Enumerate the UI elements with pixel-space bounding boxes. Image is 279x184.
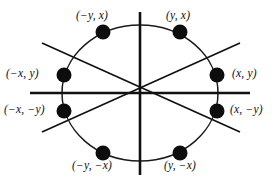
point-label-right-lower: (x, −y) xyxy=(230,104,263,116)
symmetry-point-right-lower xyxy=(210,104,225,119)
symmetry-point-right-upper xyxy=(210,68,225,83)
point-label-left-lower: (−x, −y) xyxy=(4,104,45,116)
point-label-top-left: (−y, x) xyxy=(76,10,108,22)
point-label-right-upper: (x, y) xyxy=(232,68,257,80)
point-label-bottom-left: (−y, −x) xyxy=(72,160,112,172)
circle-symmetry-diagram: (−y, x) (y, x) (−x, y) (x, y) (−x, −y) (… xyxy=(0,0,279,184)
symmetry-point-left-upper xyxy=(57,68,72,83)
point-label-bottom-right: (y, −x) xyxy=(164,160,196,172)
symmetry-point-top-left xyxy=(96,25,111,40)
diagram-canvas xyxy=(0,0,279,184)
symmetry-point-top-right xyxy=(173,25,188,40)
point-label-left-upper: (−x, y) xyxy=(6,68,39,80)
point-label-top-right: (y, x) xyxy=(166,10,190,22)
symmetry-point-left-lower xyxy=(57,104,72,119)
